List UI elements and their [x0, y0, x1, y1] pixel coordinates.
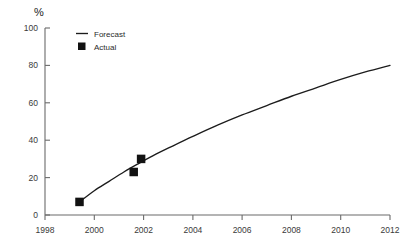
legend-square-swatch-icon — [78, 43, 86, 51]
y-tick-label: 20 — [29, 173, 39, 183]
y-axis-ticks — [45, 28, 50, 215]
x-tick-label: 2010 — [331, 225, 350, 235]
x-axis-ticks — [45, 215, 390, 220]
y-tick-label: 40 — [29, 135, 39, 145]
legend-label-actual: Actual — [94, 43, 116, 52]
y-tick-label: 80 — [29, 60, 39, 70]
y-tick-label: 0 — [33, 210, 38, 220]
line-chart: % 100 80 60 40 20 0 — [0, 0, 414, 252]
y-axis-unit-label: % — [34, 6, 44, 18]
x-tick-label: 2008 — [282, 225, 301, 235]
actual-data-point — [75, 198, 84, 207]
x-tick-label: 2006 — [233, 225, 252, 235]
x-tick-label: 2012 — [381, 225, 400, 235]
x-tick-label: 2004 — [183, 225, 202, 235]
x-tick-label: 2002 — [134, 225, 153, 235]
x-axis-tick-labels: 1998 2000 2002 2004 2006 2008 2010 2012 — [36, 225, 400, 235]
actual-data-point — [137, 155, 146, 164]
x-tick-label: 1998 — [36, 225, 55, 235]
y-tick-label: 60 — [29, 98, 39, 108]
actual-data-point — [129, 168, 138, 177]
x-tick-label: 2000 — [85, 225, 104, 235]
forecast-series-line — [80, 65, 391, 202]
y-axis-tick-labels: 100 80 60 40 20 0 — [24, 23, 38, 220]
chart-legend: Forecast Actual — [76, 30, 126, 52]
y-tick-label: 100 — [24, 23, 38, 33]
legend-label-forecast: Forecast — [94, 30, 126, 39]
chart-container: % 100 80 60 40 20 0 — [0, 0, 414, 252]
